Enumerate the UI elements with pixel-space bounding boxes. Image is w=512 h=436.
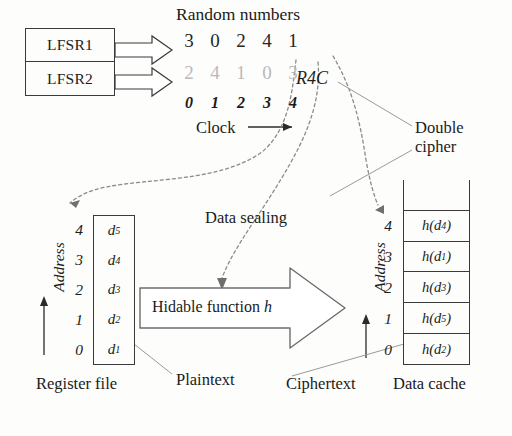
clock-index-0: 0 (176, 94, 202, 112)
double-cipher-line-2: cipher (415, 137, 464, 156)
cache-fn-3: h (422, 248, 429, 265)
register-address-2: 2 (69, 275, 89, 305)
register-address-4: 4 (69, 215, 89, 245)
lfsr-group: LFSR1 LFSR2 (25, 28, 115, 96)
random-primary-1: 0 (202, 30, 228, 52)
register-cell-1: d2 (94, 305, 134, 335)
random-numbers-row-primary: 3 0 2 4 1 (176, 30, 306, 52)
cache-fn-1: h (422, 310, 429, 327)
register-file-table: d5 d4 d3 d2 d1 (93, 215, 135, 365)
register-file-caption: Register file (36, 374, 117, 394)
lfsr1-block-arrow (115, 36, 172, 64)
lfsr1-box: LFSR1 (26, 29, 114, 62)
random-primary-0: 3 (176, 30, 202, 52)
cache-arg-base-1: d (434, 310, 441, 327)
hidable-function-text: Hidable function (152, 298, 260, 315)
register-address-axis (40, 296, 48, 355)
hidable-function-label: Hidable function h (152, 298, 272, 316)
data-cache-table: h(d4) h(d1) h(d3) h(d5) h(d2) (403, 180, 470, 365)
register-address-0: 0 (69, 335, 89, 365)
cache-cell-1: h(d5) (404, 302, 469, 333)
ciphertext-label: Ciphertext (286, 374, 356, 394)
cache-fn-0: h (422, 341, 429, 358)
random-numbers-title: Random numbers (176, 4, 300, 25)
register-address-column: 4 3 2 1 0 (69, 215, 89, 365)
hidable-function-symbol: h (264, 298, 272, 315)
register-cell-3: d4 (94, 246, 134, 276)
cache-cell-empty (404, 180, 469, 210)
register-address-1: 1 (69, 305, 89, 335)
random-secondary-0: 2 (176, 62, 202, 84)
random-primary-3: 4 (254, 30, 280, 52)
cache-arg-sub-1: 5 (441, 313, 446, 324)
cache-fn-2: h (422, 279, 429, 296)
lfsr1-label: LFSR1 (47, 36, 93, 54)
register-value-sub-3: 4 (115, 255, 120, 266)
clock-arrow (248, 123, 292, 131)
cache-arg-base-0: d (434, 341, 441, 358)
cache-arg-base-3: d (434, 248, 441, 265)
cache-cell-3: h(d1) (404, 241, 469, 272)
cache-cell-2: h(d3) (404, 271, 469, 302)
random-secondary-2: 1 (228, 62, 254, 84)
clock-index-1: 1 (202, 94, 228, 112)
lfsr2-box: LFSR2 (26, 62, 114, 95)
register-value-base-3: d (108, 252, 116, 269)
register-value-sub-0: 1 (115, 344, 120, 355)
cache-address-column: 4 3 2 1 0 (378, 210, 398, 365)
cache-cell-0: h(d2) (404, 333, 469, 364)
double-cipher-label: Double cipher (415, 118, 464, 157)
cache-arg-sub-4: 4 (441, 220, 446, 231)
register-value-base-0: d (108, 341, 116, 358)
register-cell-4: d5 (94, 216, 134, 246)
random-secondary-1: 4 (202, 62, 228, 84)
cache-cell-4: h(d4) (404, 210, 469, 241)
register-cell-2: d3 (94, 275, 134, 305)
register-value-sub-4: 5 (115, 225, 120, 236)
data-sealing-label: Data sealing (205, 208, 287, 228)
cache-address-1: 1 (378, 303, 398, 334)
register-value-base-1: d (108, 311, 116, 328)
plaintext-leader-line (134, 344, 172, 374)
lfsr2-block-arrow (115, 68, 172, 96)
cache-address-3: 3 (378, 241, 398, 272)
clock-index-3: 3 (254, 94, 280, 112)
clock-index-4: 4 (280, 94, 306, 112)
cache-arg-base-4: d (434, 217, 441, 234)
cache-address-0: 0 (378, 334, 398, 365)
random-primary-4: 1 (280, 30, 306, 52)
register-address-label: Address (50, 242, 68, 291)
dotted-path-to-cache-address (333, 56, 384, 214)
plaintext-label: Plaintext (176, 370, 235, 390)
cache-arg-sub-2: 3 (441, 282, 446, 293)
register-address-3: 3 (69, 245, 89, 275)
cache-arg-sub-0: 2 (441, 344, 446, 355)
clock-index-2: 2 (228, 94, 254, 112)
random-numbers-row-secondary: 2 4 1 0 3 (176, 62, 306, 84)
clock-label: Clock (196, 118, 235, 138)
cache-arg-sub-3: 1 (441, 251, 446, 262)
register-cell-0: d1 (94, 334, 134, 364)
cache-address-4: 4 (378, 210, 398, 241)
lfsr2-label: LFSR2 (47, 70, 93, 88)
r4c-label: R4C (296, 68, 328, 89)
cache-address-axis (362, 314, 370, 358)
double-cipher-line-1: Double (415, 118, 464, 137)
diagram-canvas: LFSR1 LFSR2 Random numbers 3 0 2 4 1 2 4… (0, 0, 512, 436)
random-secondary-3: 0 (254, 62, 280, 84)
cache-fn-4: h (422, 217, 429, 234)
register-value-base-4: d (108, 222, 116, 239)
register-value-sub-1: 2 (115, 314, 120, 325)
data-cache-caption: Data cache (393, 374, 466, 394)
register-value-sub-2: 3 (115, 284, 120, 295)
clock-index-row: 0 1 2 3 4 (176, 94, 306, 112)
random-primary-2: 2 (228, 30, 254, 52)
double-cipher-leader-lines (330, 82, 412, 196)
cache-address-2: 2 (378, 272, 398, 303)
